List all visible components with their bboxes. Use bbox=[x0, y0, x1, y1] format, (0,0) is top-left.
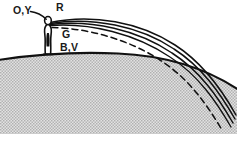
observer-figure bbox=[43, 17, 52, 55]
label-blue-violet-ray: B,V bbox=[60, 42, 78, 53]
diagram-canvas: O,Y R G B,V bbox=[0, 0, 237, 145]
observer-torso-shadow bbox=[46, 33, 49, 47]
leader-line-observer bbox=[31, 12, 47, 20]
diagram-svg bbox=[0, 0, 237, 145]
label-red-ray: R bbox=[56, 2, 64, 13]
ground-bottom-crop bbox=[0, 134, 237, 145]
label-green-ray: G bbox=[62, 29, 70, 40]
label-observer: O,Y bbox=[13, 5, 32, 16]
